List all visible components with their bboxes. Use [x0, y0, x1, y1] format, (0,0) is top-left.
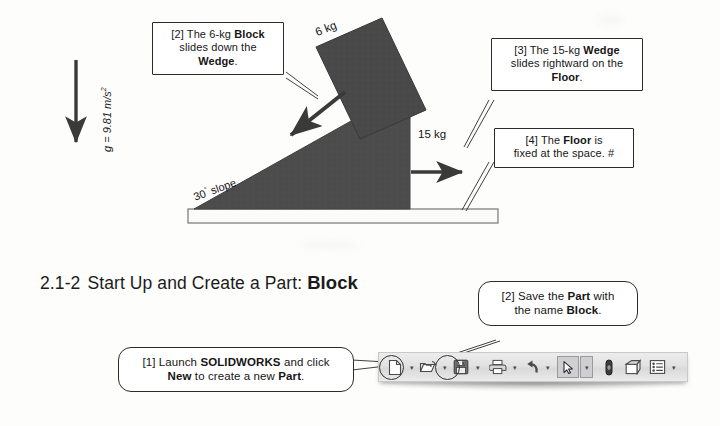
callout-save-part: [2] Save the Part with the name Block. — [478, 281, 638, 326]
toolbar-item-undo[interactable]: ▾ — [519, 354, 552, 380]
callout-block: [2] The 6-kg Block slides down the Wedge… — [152, 22, 284, 75]
callout-floor-line1: [4] The Floor is — [501, 134, 627, 147]
callout-floor-line2: fixed at the space. # — [501, 147, 627, 160]
callout-save-line1: [2] Save the Part with — [487, 289, 629, 303]
options-caret-icon[interactable]: ▾ — [669, 356, 678, 378]
callout-wedge-line3: Floor. — [498, 71, 636, 84]
callout-launch-line2: New to create a new Part. — [127, 369, 345, 383]
callout-save-line2: the name Block. — [487, 303, 629, 317]
open-caret-icon[interactable]: ▾ — [440, 356, 449, 378]
toolbar-item-select[interactable]: ▾ — [556, 354, 593, 380]
figure-page: g = 9.81 m/s2 6 kg 15 kg 30° slope [2] T… — [0, 0, 720, 426]
new-document-icon[interactable] — [384, 356, 406, 378]
select-arrow-icon[interactable] — [557, 356, 579, 378]
options-icon[interactable] — [646, 356, 668, 378]
toolbar-item-appearance[interactable] — [621, 354, 645, 380]
measure-icon[interactable] — [598, 356, 620, 378]
wedge-mass-label: 15 kg — [418, 128, 446, 140]
toolbar-item-print[interactable]: ▾ — [486, 354, 519, 380]
toolbar-item-measure[interactable] — [597, 354, 621, 380]
toolbar-item-save[interactable]: ▾ — [449, 354, 482, 380]
section-heading: 2.1-2Start Up and Create a Part: Block — [40, 272, 358, 294]
solidworks-toolbar[interactable]: ▾ ▾ ▾ ▾ — [378, 352, 688, 382]
callout-launch: [1] Launch SOLIDWORKS and click New to c… — [118, 347, 354, 392]
undo-caret-icon[interactable]: ▾ — [543, 356, 552, 378]
undo-icon[interactable] — [520, 356, 542, 378]
callout-wedge: [3] The 15-kg Wedge slides rightward on … — [491, 38, 643, 91]
new-caret-icon[interactable]: ▾ — [407, 356, 416, 378]
callout-wedge-line1: [3] The 15-kg Wedge — [498, 44, 636, 57]
save-caret-icon[interactable]: ▾ — [473, 356, 482, 378]
gravity-label: g = 9.81 m/s2 — [100, 87, 113, 152]
section-title-bold: Block — [307, 272, 358, 293]
toolbar-item-open[interactable]: ▾ — [416, 354, 449, 380]
toolbar-item-new[interactable]: ▾ — [383, 354, 416, 380]
callout-block-line1: [2] The 6-kg Block — [159, 28, 277, 41]
callout-wedge-line2: slides rightward on the — [498, 57, 636, 70]
floor-shape — [188, 209, 498, 223]
print-caret-icon[interactable]: ▾ — [510, 356, 519, 378]
callout-block-line2: slides down the — [159, 41, 277, 54]
toolbar-item-options[interactable]: ▾ — [645, 354, 678, 380]
section-title: Start Up and Create a Part: — [87, 273, 302, 293]
solidworks-toolbar-wrapper: ▾ ▾ ▾ ▾ — [378, 352, 688, 386]
callout-floor: [4] The Floor is fixed at the space. # — [494, 128, 634, 168]
callout-launch-line1: [1] Launch SOLIDWORKS and click — [127, 355, 345, 369]
callout-block-line3: Wedge. — [159, 55, 277, 68]
open-folder-icon[interactable] — [417, 356, 439, 378]
save-floppy-icon[interactable] — [450, 356, 472, 378]
toolbar-shadow — [380, 382, 686, 391]
select-caret-icon[interactable]: ▾ — [580, 356, 593, 378]
print-icon[interactable] — [487, 356, 509, 378]
appearance-icon[interactable] — [622, 356, 644, 378]
section-number: 2.1-2 — [40, 273, 80, 293]
